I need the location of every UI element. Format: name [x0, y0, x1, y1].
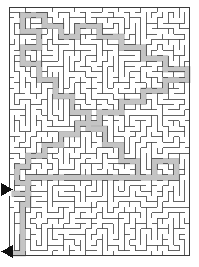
frame-top: [9, 7, 190, 8]
frame-bottom: [9, 255, 190, 256]
frame-left-middle: [9, 196, 10, 250]
frame-left-upper: [9, 7, 10, 191]
frame-right: [189, 7, 190, 256]
maze-figure: [0, 0, 199, 267]
maze-page: Rectangular maze with solution path Entr…: [0, 0, 199, 267]
maze-background: [0, 0, 199, 267]
